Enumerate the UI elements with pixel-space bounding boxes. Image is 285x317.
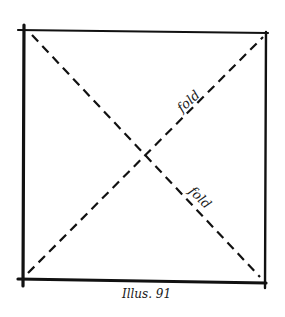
square-outline [18, 25, 268, 288]
fold-lines [28, 35, 263, 277]
fold-line-diagonal-2 [28, 37, 263, 273]
fold-label-lower: fold [185, 183, 214, 212]
right-edge [265, 32, 266, 288]
fold-diagram: fold fold [0, 0, 285, 317]
left-edge [23, 25, 24, 286]
fold-label-upper: fold [173, 87, 202, 116]
figure-caption: Illus. 91 [0, 287, 285, 301]
top-edge [18, 30, 268, 33]
bottom-edge [18, 279, 266, 283]
